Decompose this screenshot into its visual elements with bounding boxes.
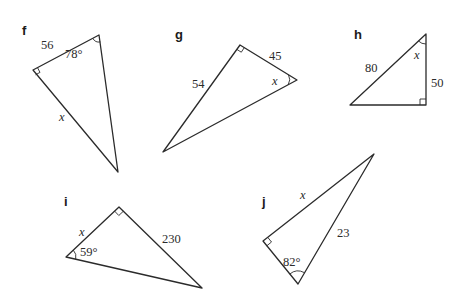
triangle-label-j: j [261,194,266,209]
side-length-56: 56 [41,38,54,52]
unknown-x: x [271,74,278,88]
right-angle-marker [115,211,124,215]
triangle-f: f 56 78° x [22,23,118,172]
angle-arc [419,41,427,44]
right-angle-marker [420,99,426,105]
triangle-j-outline [263,154,374,284]
angle-arc [290,271,305,274]
angle-78: 78° [65,47,83,61]
side-length-230: 230 [162,232,181,246]
angle-82: 82° [283,255,301,269]
right-angle-marker [267,237,272,246]
triangle-h: h 80 50 x [350,27,444,105]
unknown-x: x [299,188,306,202]
triangle-label-h: h [354,27,362,42]
angle-arc [73,250,76,259]
side-length-23: 23 [337,226,350,240]
angle-59: 59° [80,245,98,259]
side-length-45: 45 [269,49,282,63]
triangle-j: j x 23 82° [261,154,374,284]
triangle-label-f: f [22,23,27,38]
unknown-x: x [413,48,420,62]
triangle-h-outline [350,34,426,105]
unknown-x: x [78,225,85,239]
side-length-50: 50 [431,76,444,90]
triangle-label-i: i [64,194,68,209]
angle-arc [288,75,289,85]
side-length-54: 54 [192,77,205,91]
triangles-figure: f 56 78° x g 45 54 x h 80 50 x i x 230 5… [0,0,467,305]
triangle-label-g: g [175,27,183,42]
triangle-i: i x 230 59° [64,194,202,288]
unknown-x: x [58,110,65,124]
hypotenuse-80: 80 [365,61,378,75]
triangle-g: g 45 54 x [163,27,297,152]
